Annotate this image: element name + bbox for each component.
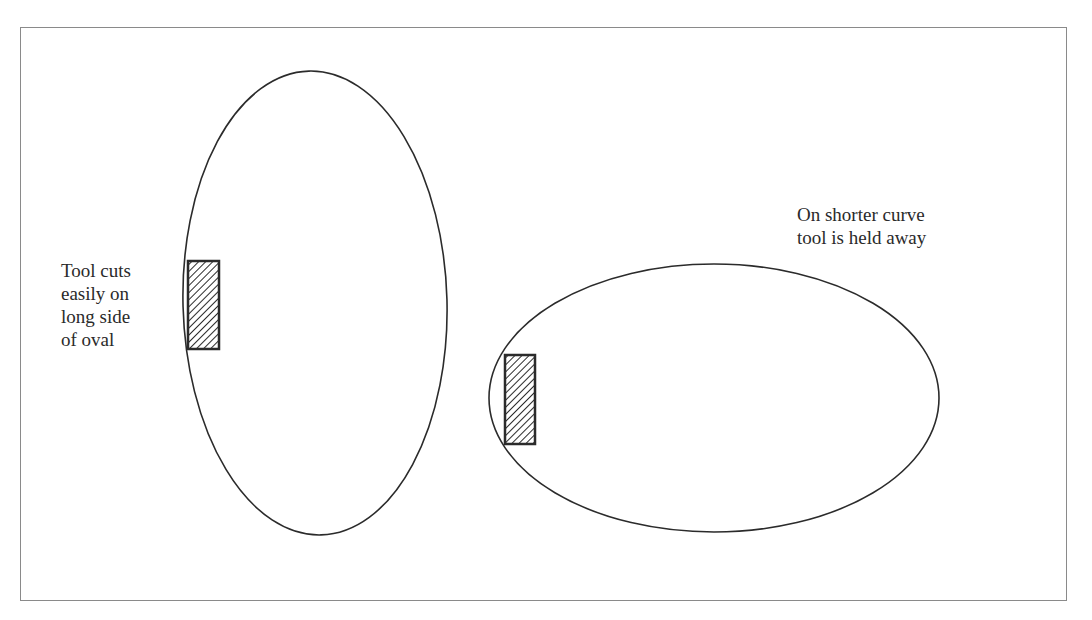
right-oval bbox=[489, 264, 939, 532]
caption-line: Tool cuts bbox=[61, 259, 131, 282]
caption-line: long side bbox=[61, 305, 131, 328]
caption-line: of oval bbox=[61, 328, 131, 351]
caption-line: easily on bbox=[61, 282, 131, 305]
diagram-canvas bbox=[0, 0, 1092, 620]
right-tool-cutter bbox=[505, 355, 535, 444]
caption-line: On shorter curve bbox=[797, 203, 926, 226]
left-tool-cutter bbox=[188, 261, 219, 349]
left-oval-caption: Tool cuts easily on long side of oval bbox=[61, 259, 131, 351]
caption-line: tool is held away bbox=[797, 226, 926, 249]
right-oval-caption: On shorter curve tool is held away bbox=[797, 203, 926, 249]
frame-border bbox=[21, 28, 1067, 601]
